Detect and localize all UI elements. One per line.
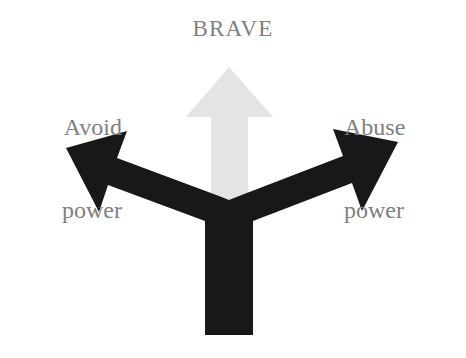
- label-abuse-power-line1: Abuse: [344, 114, 466, 142]
- diagram-canvas: BRAVE Avoid power Abuse power: [0, 0, 466, 358]
- label-avoid-power-line2: power: [0, 197, 122, 225]
- page-title: BRAVE: [0, 16, 466, 43]
- label-abuse-power-line2: power: [344, 197, 466, 225]
- label-avoid-power: Avoid power: [0, 58, 122, 281]
- label-abuse-power: Abuse power: [344, 58, 466, 281]
- label-avoid-power-line1: Avoid: [0, 114, 122, 142]
